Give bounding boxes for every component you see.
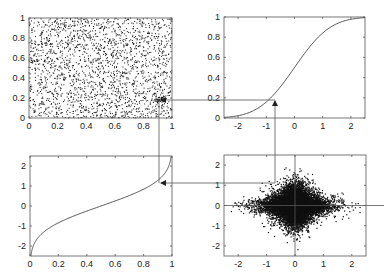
x-tick-label: -2	[234, 259, 242, 269]
y-tick-label: 0	[20, 113, 25, 123]
normal-cdf-plot: -2-101200.20.40.60.81	[207, 12, 365, 131]
y-tick-label: -1	[212, 221, 220, 231]
x-tick-label: 0.2	[51, 121, 64, 131]
y-tick-label: 0.8	[12, 33, 25, 43]
y-tick-label: 0.2	[12, 93, 25, 103]
y-tick-label: -2	[212, 241, 220, 251]
x-tick-label: 0.4	[80, 121, 93, 131]
x-tick-label: 0.2	[52, 259, 65, 269]
x-tick-label: 0.6	[109, 259, 122, 269]
x-tick-label: 0.4	[81, 259, 94, 269]
y-tick-label: 1	[21, 181, 26, 191]
joint-scatter-plot: -2-1012-2-1012	[212, 155, 384, 269]
y-tick-label: 0.8	[207, 32, 220, 42]
y-tick-label: 0.4	[12, 73, 25, 83]
y-tick-label: 1	[20, 13, 25, 23]
y-tick-label: 2	[215, 160, 220, 170]
y-tick-label: 0	[215, 113, 220, 123]
y-tick-label: 0	[21, 201, 26, 211]
x-tick-label: -2	[234, 121, 242, 131]
x-tick-label: 2	[348, 121, 353, 131]
copula-figure: 00.20.40.60.8100.20.40.60.81 -2-101200.2…	[0, 0, 384, 280]
data-layer	[31, 156, 171, 256]
function-curve	[31, 156, 171, 256]
function-curve	[224, 18, 365, 118]
x-tick-label: 1	[321, 259, 326, 269]
x-tick-label: 0	[292, 121, 297, 131]
x-tick-label: 0.8	[137, 121, 150, 131]
x-tick-label: 1	[320, 121, 325, 131]
y-tick-label: 0.2	[207, 93, 220, 103]
x-tick-label: 0	[26, 121, 31, 131]
x-tick-label: -1	[263, 259, 271, 269]
x-tick-label: 0	[292, 259, 297, 269]
y-tick-label: 0.6	[207, 52, 220, 62]
x-tick-label: -1	[262, 121, 270, 131]
x-tick-label: 0.6	[109, 121, 122, 131]
data-layer	[231, 167, 361, 250]
inverse-cdf-plot: 00.20.40.60.81-2-1012	[18, 156, 175, 269]
x-tick-label: 2	[349, 259, 354, 269]
y-tick-label: 1	[215, 12, 220, 22]
y-tick-label: -1	[18, 221, 26, 231]
y-tick-label: 0	[215, 201, 220, 211]
data-layer	[224, 18, 365, 118]
uniform-scatter-plot: 00.20.40.60.8100.20.40.60.81	[12, 13, 174, 131]
data-layer	[29, 18, 173, 119]
y-tick-label: 0.4	[207, 73, 220, 83]
x-tick-label: 0	[27, 259, 32, 269]
x-tick-label: 1	[169, 259, 174, 269]
y-tick-label: 0.6	[12, 53, 25, 63]
x-tick-label: 1	[169, 121, 174, 131]
y-tick-label: -2	[18, 241, 26, 251]
y-tick-label: 1	[215, 180, 220, 190]
y-tick-label: 2	[21, 161, 26, 171]
x-tick-label: 0.8	[137, 259, 150, 269]
